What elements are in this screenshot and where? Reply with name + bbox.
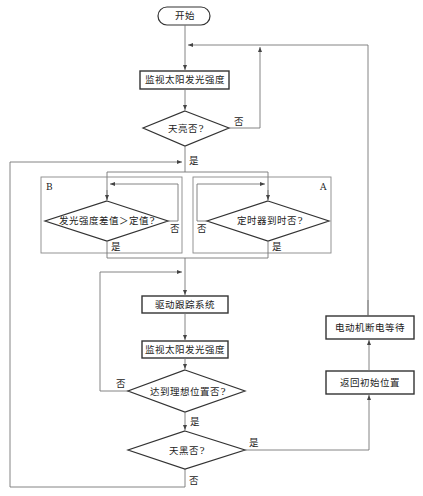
return-home-label: 返回初始位置 xyxy=(340,378,400,388)
reached-no-label: 否 xyxy=(116,379,126,389)
timer-yes-label: 是 xyxy=(272,242,282,252)
night-no-label: 否 xyxy=(189,476,199,486)
reached-label: 达到理想位置否? xyxy=(150,387,225,397)
night-yes-label: 是 xyxy=(249,438,259,448)
timer-check-label: 定时器到时否? xyxy=(237,216,302,226)
edge-timer-yes xyxy=(185,241,268,258)
is-day-label: 天亮否? xyxy=(168,124,203,134)
is-day-no-label: 否 xyxy=(234,117,244,127)
group-a-label: A xyxy=(320,183,327,192)
monitor-1-label: 监视太阳发光强度 xyxy=(145,75,225,85)
motor-off-label: 电动机断电等待 xyxy=(335,323,405,333)
edge-split xyxy=(107,172,268,200)
is-night-label: 天黑否? xyxy=(169,446,204,456)
edge-night-yes xyxy=(245,395,369,450)
diff-yes-label: 是 xyxy=(111,242,121,252)
reached-yes-label: 是 xyxy=(190,417,200,427)
diff-check-label: 发光强度差值＞定值? xyxy=(59,216,154,226)
diff-no-label: 否 xyxy=(170,224,180,234)
start-label: 开始 xyxy=(175,11,195,21)
is-day-yes-label: 是 xyxy=(189,156,199,166)
drive-label: 驱动跟踪系统 xyxy=(155,300,215,310)
monitor-2-label: 监视太阳发光强度 xyxy=(145,345,225,355)
timer-no-label: 否 xyxy=(197,224,207,234)
edge-reached-no xyxy=(100,272,182,391)
group-b-label: B xyxy=(46,183,53,192)
